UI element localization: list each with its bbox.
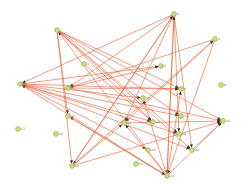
edge (68, 116, 167, 176)
node-circle-icon[interactable] (177, 132, 182, 137)
graph-node[interactable]: 21 (134, 162, 143, 167)
node-label: 16 (182, 132, 186, 136)
edge (167, 14, 174, 176)
node-circle-icon[interactable] (16, 127, 21, 132)
node-label: 18 (59, 132, 63, 136)
graph-node[interactable]: 4 (82, 62, 89, 67)
graph-node[interactable]: 14 (221, 119, 230, 124)
node-circle-icon[interactable] (219, 83, 224, 88)
node-circle-icon[interactable] (55, 28, 60, 33)
node-circle-icon[interactable] (70, 164, 75, 169)
node-circle-icon[interactable] (66, 86, 71, 91)
node-label: 8 (184, 87, 186, 91)
graph-node[interactable]: 2 (172, 12, 179, 17)
graph-node[interactable]: 23 (165, 174, 174, 179)
node-circle-icon[interactable] (179, 114, 184, 119)
node-circle-icon[interactable] (134, 162, 139, 167)
edge (143, 98, 167, 176)
node-circle-icon[interactable] (82, 62, 87, 67)
node-circle-icon[interactable] (66, 114, 71, 119)
node-circle-icon[interactable] (54, 132, 59, 137)
graph-node[interactable]: 9 (219, 83, 226, 88)
node-circle-icon[interactable] (172, 12, 177, 17)
graph-node[interactable]: 20 (190, 148, 199, 153)
graph-node[interactable]: 18 (54, 132, 63, 137)
node-circle-icon[interactable] (165, 174, 170, 179)
node-label: 23 (170, 174, 174, 178)
graph-node[interactable]: 8 (179, 87, 186, 92)
node-label: 15 (71, 114, 75, 118)
edge (20, 84, 179, 134)
edge (57, 30, 181, 116)
node-circle-icon[interactable] (146, 148, 151, 153)
node-label: 9 (224, 83, 226, 87)
node-label: 11 (184, 114, 188, 118)
edge (68, 14, 174, 88)
node-label: 19 (151, 148, 155, 152)
node-label: 22 (75, 164, 79, 168)
edge-arrow-icon (177, 128, 180, 131)
node-circle-icon[interactable] (151, 120, 156, 125)
node-circle-icon[interactable] (213, 37, 218, 42)
node-circle-icon[interactable] (159, 64, 164, 69)
node-label: 10 (146, 96, 150, 100)
node-label: 7 (71, 86, 73, 90)
network-graph: 1234567891011121314151617181920212223 (0, 0, 247, 185)
node-label: 14 (226, 119, 230, 123)
graph-node[interactable]: 13 (151, 120, 160, 125)
graph-node[interactable]: 19 (146, 148, 155, 153)
node-label: 20 (195, 148, 199, 152)
edge (68, 39, 215, 88)
node-circle-icon[interactable] (179, 87, 184, 92)
node-circle-icon[interactable] (221, 119, 226, 124)
graph-node[interactable]: 3 (213, 37, 220, 42)
graph-node[interactable]: 10 (141, 96, 150, 101)
edge (167, 39, 215, 176)
node-label: 1 (60, 28, 62, 32)
node-circle-icon[interactable] (190, 148, 195, 153)
node-label: 12 (127, 121, 131, 125)
node-label: 3 (218, 37, 220, 41)
edge-arrow-icon (179, 91, 182, 94)
graph-node[interactable]: 5 (159, 64, 166, 69)
node-label: 2 (177, 12, 179, 16)
graph-node[interactable]: 11 (179, 114, 188, 119)
node-label: 5 (164, 64, 166, 68)
graph-node[interactable]: 22 (70, 164, 79, 169)
node-label: 6 (23, 82, 25, 86)
node-circle-icon[interactable] (122, 121, 127, 126)
node-label: 21 (139, 162, 143, 166)
node-label: 13 (156, 120, 160, 124)
node-circle-icon[interactable] (141, 96, 146, 101)
node-label: 17 (21, 127, 25, 131)
node-label: 4 (87, 62, 89, 66)
node-circle-icon[interactable] (18, 82, 23, 87)
graph-node[interactable]: 17 (16, 127, 25, 132)
